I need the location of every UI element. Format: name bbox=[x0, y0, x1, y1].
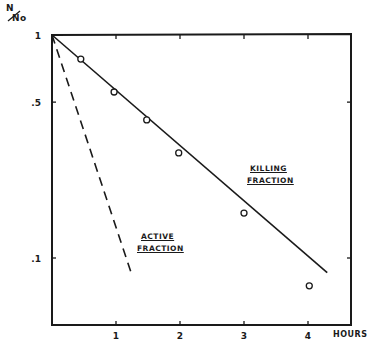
data-point bbox=[144, 117, 150, 123]
plot-frame bbox=[52, 34, 351, 325]
chart-canvas: 12341.5.1 bbox=[0, 0, 367, 345]
annotation-killing-2: FRACTION bbox=[247, 176, 294, 185]
data-point bbox=[176, 150, 182, 156]
x-axis-label: HOURS bbox=[333, 330, 367, 339]
annotation-killing-1: KILLING bbox=[250, 164, 287, 173]
y-tick-label: .1 bbox=[31, 254, 41, 264]
y-tick-label: .5 bbox=[31, 98, 41, 108]
annotation-active-1: ACTIVE bbox=[141, 232, 174, 241]
data-point bbox=[111, 89, 117, 95]
annotation-active-2: FRACTION bbox=[137, 244, 184, 253]
data-point bbox=[78, 56, 84, 62]
data-point bbox=[241, 210, 247, 216]
data-point bbox=[306, 283, 312, 289]
y-tick-label: 1 bbox=[35, 31, 41, 41]
active-fraction-line bbox=[52, 35, 131, 271]
y-axis-label-n: N bbox=[6, 3, 14, 13]
x-tick-label: 1 bbox=[113, 331, 119, 341]
x-tick-label: 2 bbox=[177, 331, 183, 341]
x-tick-label: 3 bbox=[241, 331, 247, 341]
x-tick-label: 4 bbox=[305, 331, 311, 341]
y-axis-label-no: No bbox=[12, 13, 27, 23]
killing-fraction-line bbox=[52, 35, 327, 273]
